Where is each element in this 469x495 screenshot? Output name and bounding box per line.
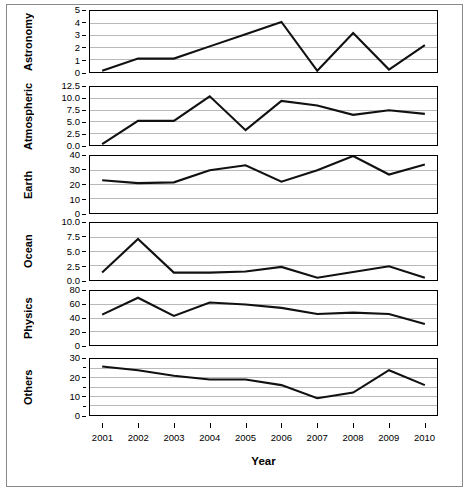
y-tick-mark-minor [83,387,86,388]
x-tick-mark [102,423,103,428]
y-tick-label: 5.0 [67,246,80,256]
y-tick-label: 30 [69,353,80,363]
y-tick-label: 10 [69,194,80,204]
panel-label-physics: Physics [14,290,42,346]
panel-label-atmospheric: Atmospheric [14,86,42,146]
y-tick-mark [82,214,86,215]
y-tick-mark [82,10,86,11]
y-tick-mark [82,155,86,156]
y-tick-label: 30 [69,165,80,175]
y-tick-label: 5 [75,5,80,15]
y-tick-label: 0 [75,68,80,78]
y-tick-label: 10.0 [62,217,81,227]
x-tick-mark [425,423,426,428]
figure-root: Astronomy012345Atmospheric0.02.55.07.510… [0,0,469,495]
y-tick-label: 7.5 [67,232,80,242]
y-tick-label: 20 [69,327,80,337]
y-tick-mark-minor [83,406,86,407]
series-line-ocean [90,223,437,280]
y-tick-label: 0 [75,411,80,421]
y-tick-label: 12.5 [62,81,81,91]
y-tick-mark [82,416,86,417]
plot-area-earth [89,155,438,214]
y-tick-mark [82,60,86,61]
x-tick-label: 2007 [307,432,328,443]
y-tick-label: 10 [69,391,80,401]
y-tick-mark [82,332,86,333]
y-tick-mark [82,122,86,123]
y-tick-mark [82,110,86,111]
y-tick-label: 1 [75,55,80,65]
y-tick-mark [82,47,86,48]
y-tick-mark [82,251,86,252]
plot-area-ocean [89,222,438,281]
y-tick-label: 3 [75,30,80,40]
y-tick-mark [82,346,86,347]
x-axis-title: Year [89,455,438,467]
y-tick-mark [82,377,86,378]
y-axis-ocean: 0.02.55.07.510.0 [44,222,86,281]
x-tick-label: 2008 [342,432,363,443]
plot-area-atmospheric [89,86,438,146]
x-tick-label: 2002 [128,432,149,443]
y-tick-label: 2 [75,43,80,53]
y-tick-label: 60 [69,299,80,309]
y-tick-mark [82,281,86,282]
y-tick-label: 20 [69,372,80,382]
y-tick-mark [82,134,86,135]
y-tick-label: 20 [69,179,80,189]
series-line-earth [90,156,437,213]
x-tick-mark [246,423,247,428]
series-line-physics [90,291,437,345]
series-line-others [90,359,437,415]
y-tick-mark [82,199,86,200]
y-tick-mark [82,184,86,185]
x-tick-label: 2009 [378,432,399,443]
x-axis: 2001200220032004200520062007200820092010 [89,423,438,457]
y-tick-label: 0 [75,341,80,351]
y-tick-label: 10.0 [62,93,81,103]
x-tick-mark [389,423,390,428]
y-tick-mark [82,222,86,223]
y-tick-mark [82,146,86,147]
x-tick-mark [281,423,282,428]
x-tick-label: 2006 [271,432,292,443]
plot-area-others [89,358,438,416]
y-tick-mark [82,35,86,36]
y-tick-label: 4 [75,17,80,27]
x-tick-label: 2005 [235,432,256,443]
y-axis-others: 0102030 [44,358,86,416]
x-tick-label: 2003 [163,432,184,443]
x-tick-label: 2004 [199,432,220,443]
y-tick-label: 5.0 [67,117,80,127]
panel-label-others: Others [14,358,42,416]
y-tick-label: 2.5 [67,129,80,139]
x-tick-mark [353,423,354,428]
panel-label-earth: Earth [14,155,42,214]
y-axis-atmospheric: 0.02.55.07.510.012.5 [44,86,86,146]
y-tick-mark [82,304,86,305]
panel-label-ocean: Ocean [14,222,42,281]
y-tick-mark [82,266,86,267]
y-tick-mark [82,22,86,23]
y-tick-mark [82,358,86,359]
y-tick-mark [82,98,86,99]
x-tick-mark [210,423,211,428]
y-tick-label: 2.5 [67,261,80,271]
panel-label-astronomy: Astronomy [14,10,42,73]
y-tick-label: 40 [69,150,80,160]
y-axis-astronomy: 012345 [44,10,86,73]
x-tick-mark [138,423,139,428]
y-axis-earth: 010203040 [44,155,86,214]
y-tick-mark [82,169,86,170]
y-tick-mark [82,86,86,87]
y-tick-mark [82,236,86,237]
plot-area-physics [89,290,438,346]
plot-area-astronomy [89,10,438,73]
x-tick-label: 2001 [92,432,113,443]
y-tick-label: 80 [69,285,80,295]
series-line-astronomy [90,11,437,72]
x-tick-mark [174,423,175,428]
y-tick-label: 7.5 [67,105,80,115]
y-tick-mark [82,290,86,291]
